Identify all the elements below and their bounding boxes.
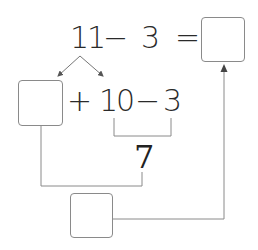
equals-sign: = bbox=[175, 23, 200, 53]
ten-number: 10 bbox=[99, 86, 133, 116]
subtrahend: 3 bbox=[163, 86, 182, 116]
arrow-up-icon bbox=[221, 64, 228, 72]
split-arrow-right bbox=[80, 56, 103, 76]
answer-box[interactable] bbox=[201, 17, 245, 62]
minus-sign: − bbox=[103, 23, 128, 53]
minus-sign-2: − bbox=[135, 86, 160, 116]
right-operand: 3 bbox=[141, 23, 160, 53]
intermediate-result: 7 bbox=[134, 141, 154, 173]
connector-box-to-seven bbox=[41, 126, 142, 186]
bracket-ten-minus-three bbox=[114, 118, 171, 136]
final-box[interactable] bbox=[70, 193, 113, 238]
plus-sign: + bbox=[67, 86, 92, 116]
split-arrow-left bbox=[58, 56, 80, 76]
left-operand: 11 bbox=[70, 23, 104, 53]
part-box[interactable] bbox=[18, 80, 63, 126]
